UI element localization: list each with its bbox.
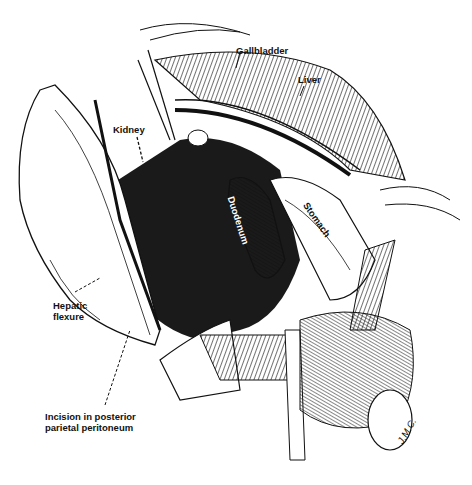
label-gallbladder: Gallbladder [236, 45, 288, 56]
label-incision-2: parietal peritoneum [45, 422, 133, 433]
figure-caption-truncated [42, 477, 442, 485]
label-liver: Liver [298, 74, 321, 85]
label-hepatic-flexure-1: Hepatic [53, 300, 87, 311]
label-incision-1: Incision in posterior [45, 411, 136, 422]
label-kidney: Kidney [113, 124, 145, 135]
label-hepatic-flexure-2: flexure [53, 311, 84, 322]
anatomical-illustration: Gallbladder Liver Kidney Duodenum Stomac… [0, 0, 472, 485]
